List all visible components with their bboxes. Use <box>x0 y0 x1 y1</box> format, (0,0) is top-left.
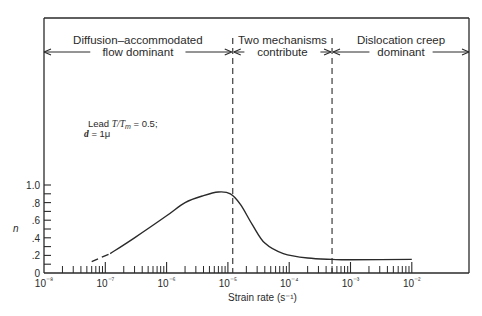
curve-solid-segment <box>110 192 412 260</box>
x-axis-label: Strain rate (s⁻¹) <box>228 292 297 303</box>
region-label-line-1: Two mechanisms <box>238 34 327 46</box>
annotation-line-2: d = 1μ <box>84 128 110 139</box>
y-tick-label: .8 <box>32 198 41 209</box>
y-axis-ticks: 0.2.4.6.81.0 <box>26 180 51 279</box>
curve-dashed-segment <box>92 254 111 262</box>
y-tick-label: .2 <box>32 250 41 261</box>
y-tick-label: 1.0 <box>26 180 40 191</box>
x-tick-label: 10⁻⁵ <box>219 276 237 289</box>
x-tick-label: 10⁻⁷ <box>96 276 114 289</box>
region-label-line-2: contribute <box>257 46 308 58</box>
x-tick-label: 10⁻³ <box>342 276 360 289</box>
x-tick-label: 10⁻⁸ <box>35 276 53 289</box>
region-label-line-1: Diffusion–accommodated <box>73 34 203 46</box>
region-dividers <box>233 38 332 273</box>
chart: 0.2.4.6.81.0 10⁻⁸10⁻⁷10⁻⁶10⁻⁵10⁻⁴10⁻³10⁻… <box>0 0 482 316</box>
y-axis-label: n <box>13 223 19 234</box>
region-label-line-2: flow dominant <box>102 46 174 58</box>
region-label-line-1: Dislocation creep <box>357 34 445 46</box>
data-curve <box>92 192 412 262</box>
y-tick-label: .4 <box>32 233 41 244</box>
region-label-line-2: dominant <box>377 46 425 58</box>
x-axis-ticks: 10⁻⁸10⁻⁷10⁻⁶10⁻⁵10⁻⁴10⁻³10⁻² <box>35 262 421 289</box>
x-tick-label: 10⁻² <box>403 276 421 289</box>
y-tick-label: .6 <box>32 215 41 226</box>
x-tick-label: 10⁻⁶ <box>157 276 175 289</box>
region-labels: Diffusion–accommodatedflow dominantTwo m… <box>73 34 445 58</box>
x-tick-label: 10⁻⁴ <box>280 276 298 289</box>
